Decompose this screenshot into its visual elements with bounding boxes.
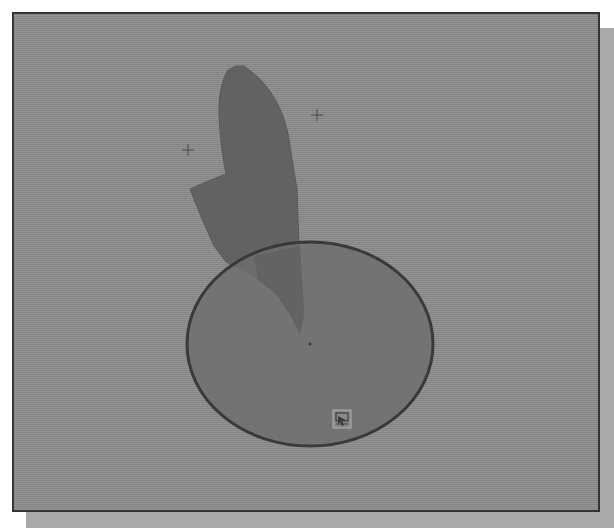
select-object-icon xyxy=(333,410,351,428)
drawing-viewport[interactable] xyxy=(12,12,600,512)
crosshair-marker-right-icon xyxy=(311,109,323,121)
drawing-canvas[interactable] xyxy=(14,14,598,510)
crosshair-marker-left-icon xyxy=(182,144,194,156)
center-point-icon xyxy=(309,343,312,346)
